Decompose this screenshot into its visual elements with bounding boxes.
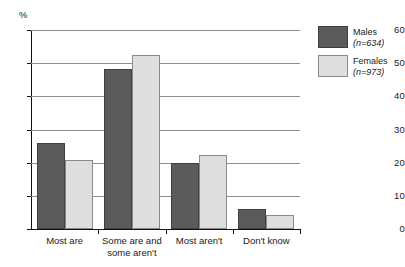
bar-females xyxy=(199,155,227,229)
legend-swatch-males xyxy=(318,26,348,48)
bar-males xyxy=(238,209,266,229)
x-tick-mark xyxy=(166,230,167,234)
x-category-label: Most are xyxy=(31,235,98,247)
legend-item-females: Females (n=973) xyxy=(318,55,405,77)
y-tick-mark xyxy=(27,229,31,230)
y-axis-unit-label: % xyxy=(19,10,27,20)
y-tick-mark xyxy=(27,96,31,97)
x-category-label: Don't know xyxy=(233,235,300,247)
y-tick-mark xyxy=(27,63,31,64)
y-tick-label: 40 xyxy=(381,91,405,101)
y-tick-label: 20 xyxy=(381,158,405,168)
bar-chart: % 0102030405060 Most areSome are andsome… xyxy=(0,0,405,267)
gridline xyxy=(31,96,300,97)
x-category-label: Some are andsome aren't xyxy=(98,235,165,259)
legend-n-females: (n=973) xyxy=(353,67,388,78)
legend-swatch-females xyxy=(318,55,348,77)
y-tick-mark xyxy=(27,196,31,197)
bar-females xyxy=(266,215,294,229)
bar-males xyxy=(37,143,65,229)
y-tick-mark xyxy=(27,163,31,164)
legend-label-males: Males xyxy=(353,27,384,38)
y-tick-label: 0 xyxy=(381,224,405,234)
bar-males xyxy=(104,69,132,229)
y-tick-label: 30 xyxy=(381,125,405,135)
legend-label-females: Females xyxy=(353,56,388,67)
bar-females xyxy=(65,160,93,229)
gridline xyxy=(31,63,300,64)
gridline xyxy=(31,30,300,31)
legend: Males (n=634) Females (n=973) xyxy=(318,26,405,84)
y-tick-mark xyxy=(27,130,31,131)
gridline xyxy=(31,130,300,131)
x-tick-mark xyxy=(300,230,301,234)
legend-n-males: (n=634) xyxy=(353,38,384,49)
x-category-label: Most aren't xyxy=(166,235,233,247)
x-tick-mark xyxy=(233,230,234,234)
legend-item-males: Males (n=634) xyxy=(318,26,405,48)
y-tick-mark xyxy=(27,30,31,31)
x-tick-mark xyxy=(98,230,99,234)
bar-males xyxy=(171,163,199,229)
bar-females xyxy=(132,55,160,229)
plot-area xyxy=(31,30,300,229)
y-tick-label: 10 xyxy=(381,191,405,201)
